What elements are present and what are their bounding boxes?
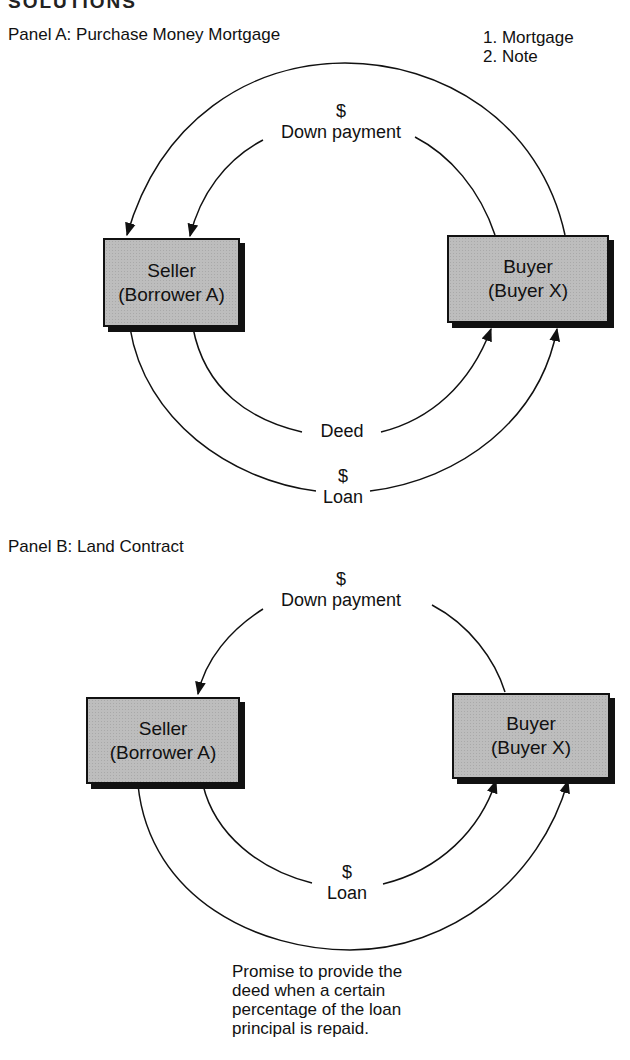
seller-box-b: Seller (Borrower A) — [86, 697, 240, 784]
panel-a-title: Panel A: Purchase Money Mortgage — [8, 25, 280, 45]
arc-down-payment-b-left — [198, 609, 263, 694]
down-payment-text: Down payment — [266, 122, 416, 143]
seller-title: Seller — [147, 259, 196, 283]
promise-line: principal is repaid. — [232, 1019, 402, 1038]
down-payment-text: Down payment — [266, 590, 416, 611]
seller-subtitle: (Borrower A) — [110, 741, 217, 765]
dollar-symbol: $ — [266, 101, 416, 122]
buyer-title: Buyer — [503, 255, 553, 279]
buyer-box-a: Buyer (Buyer X) — [447, 235, 609, 323]
arc-mortgage-note — [127, 63, 565, 235]
loan-text: Loan — [310, 487, 376, 508]
buyer-box-b: Buyer (Buyer X) — [452, 693, 610, 779]
dollar-symbol: $ — [310, 466, 376, 487]
promise-label: Promise to provide the deed when a certa… — [232, 962, 402, 1038]
dollar-symbol: $ — [312, 862, 382, 883]
mortgage-label: 1. Mortgage — [483, 28, 574, 47]
buyer-title: Buyer — [506, 712, 556, 736]
seller-box-a: Seller (Borrower A) — [103, 238, 240, 327]
loan-text: Loan — [312, 883, 382, 904]
panel-b-title: Panel B: Land Contract — [8, 537, 184, 557]
arc-deed-right — [381, 329, 491, 432]
note-label: 2. Note — [483, 47, 574, 66]
seller-title: Seller — [139, 717, 188, 741]
arc-down-payment-a-right — [415, 137, 495, 235]
dollar-symbol: $ — [266, 569, 416, 590]
promise-line: Promise to provide the — [232, 962, 402, 981]
down-payment-label-b: $ Down payment — [266, 569, 416, 611]
arc-loan-b-right — [383, 781, 496, 884]
mortgage-note-label: 1. Mortgage 2. Note — [483, 28, 574, 66]
arc-loan-b-left — [203, 785, 312, 883]
arc-loan-a-right — [370, 329, 557, 491]
arc-down-payment-b-right — [432, 605, 505, 692]
promise-line: percentage of the loan — [232, 1000, 402, 1019]
buyer-subtitle: (Buyer X) — [491, 736, 571, 760]
arc-deed-left — [193, 328, 302, 432]
arc-down-payment-a-left — [190, 140, 263, 236]
arc-loan-a-left — [130, 328, 316, 491]
down-payment-label-a: $ Down payment — [266, 101, 416, 143]
seller-subtitle: (Borrower A) — [118, 283, 225, 307]
buyer-subtitle: (Buyer X) — [488, 279, 568, 303]
loan-label-a: $ Loan — [310, 466, 376, 508]
deed-label: Deed — [302, 421, 382, 442]
promise-line: deed when a certain — [232, 981, 402, 1000]
loan-label-b: $ Loan — [312, 862, 382, 904]
